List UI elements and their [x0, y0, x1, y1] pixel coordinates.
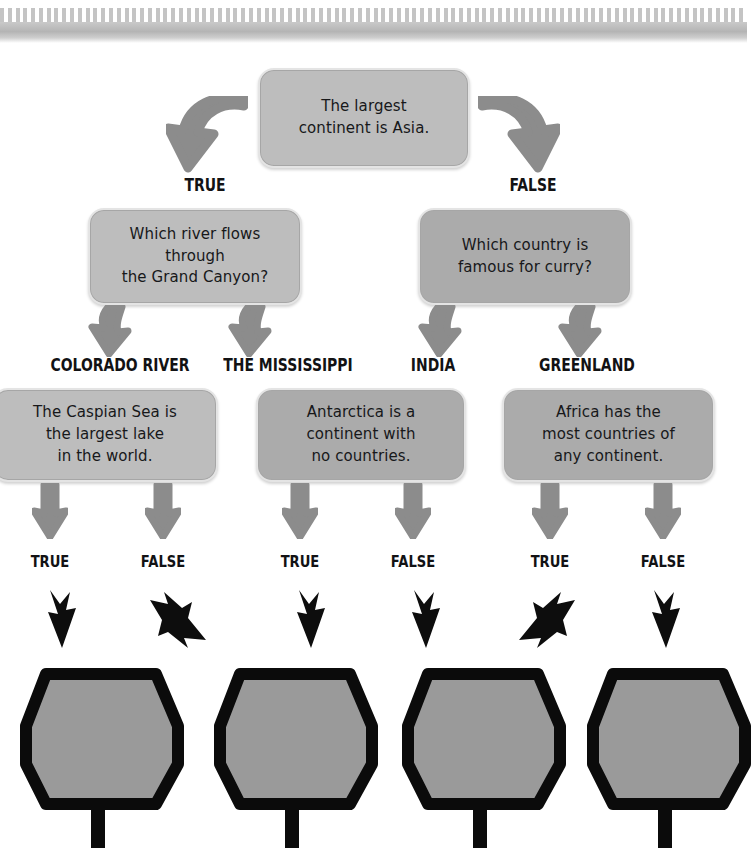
card-text: Which country is famous for curry?: [430, 235, 620, 279]
answer-paddle[interactable]: [585, 668, 755, 848]
card-text: The Caspian Sea is the largest lake in t…: [4, 402, 206, 467]
label-caspian-false: FALSE: [133, 552, 194, 571]
answer-paddle[interactable]: [400, 668, 570, 848]
answer-paddle[interactable]: [18, 668, 188, 848]
card-statement-africa[interactable]: Africa has the most countries of any con…: [502, 388, 715, 482]
label-answer-greenland: GREENLAND: [526, 355, 649, 375]
handdrawn-arrow-down-icon: [400, 588, 452, 650]
handdrawn-arrow-down-icon: [640, 588, 692, 650]
hook-arrow-down-left-icon: [228, 305, 274, 357]
hook-arrow-down-left-icon: [558, 305, 604, 357]
label-antarctica-true: TRUE: [271, 552, 328, 571]
label-root-false: FALSE: [502, 175, 564, 195]
label-answer-india: INDIA: [396, 355, 470, 375]
curved-arrow-right-icon: [478, 96, 560, 176]
card-question-false-branch[interactable]: Which country is famous for curry?: [418, 208, 632, 305]
binding-bar: [0, 22, 747, 38]
straight-arrow-down-icon: [145, 483, 181, 539]
card-text: Antarctica is a continent with no countr…: [268, 402, 454, 467]
hook-arrow-down-left-icon: [88, 305, 134, 357]
label-root-true: TRUE: [176, 175, 233, 195]
handdrawn-arrow-down-icon: [36, 588, 88, 650]
straight-arrow-down-icon: [395, 483, 431, 539]
card-root-statement[interactable]: The largest continent is Asia.: [258, 68, 470, 168]
straight-arrow-down-icon: [532, 483, 568, 539]
straight-arrow-down-icon: [645, 483, 681, 539]
card-text: The largest continent is Asia.: [270, 96, 458, 140]
label-answer-the-mississippi: THE MISSISSIPPI: [214, 355, 362, 375]
label-answer-colorado-river: COLORADO RIVER: [46, 355, 194, 375]
card-statement-antarctica[interactable]: Antarctica is a continent with no countr…: [256, 388, 466, 482]
handdrawn-arrow-down-left-icon: [515, 592, 577, 650]
handdrawn-arrow-down-right-icon: [148, 592, 210, 650]
straight-arrow-down-icon: [32, 483, 68, 539]
card-question-true-branch[interactable]: Which river flows through the Grand Cany…: [88, 208, 302, 305]
label-africa-false: FALSE: [633, 552, 694, 571]
straight-arrow-down-icon: [282, 483, 318, 539]
answer-paddle[interactable]: [212, 668, 382, 848]
handdrawn-arrow-down-icon: [285, 588, 337, 650]
label-antarctica-false: FALSE: [383, 552, 444, 571]
card-text: Africa has the most countries of any con…: [514, 402, 703, 467]
card-text: Which river flows through the Grand Cany…: [100, 224, 290, 289]
card-statement-caspian[interactable]: The Caspian Sea is the largest lake in t…: [0, 388, 218, 482]
curved-arrow-left-icon: [166, 96, 248, 176]
spiral-binding: [0, 8, 747, 40]
binding-shadow: [0, 38, 747, 43]
label-caspian-true: TRUE: [21, 552, 78, 571]
hook-arrow-down-left-icon: [418, 305, 464, 357]
label-africa-true: TRUE: [521, 552, 578, 571]
